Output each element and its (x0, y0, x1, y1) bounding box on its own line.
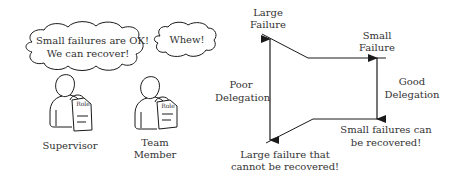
large-unrecoverable-label-line-1: Large failure that (230, 149, 340, 161)
good-delegation-label-line-1: Good (382, 76, 442, 88)
team-member-speech: Whew! (160, 34, 214, 46)
small-failure-label-line-2: Failure (350, 42, 404, 54)
supervisor-speech-line-1: Small failures are OK! (36, 35, 140, 47)
supervisor-label: Supervisor (40, 140, 100, 152)
large-failure-label-line-1: Large (244, 7, 292, 19)
large-unrecoverable-label-line-2: cannot be recovered! (230, 161, 340, 173)
delegation-diagram: Small failures are OK! We can recover! W… (0, 0, 449, 179)
small-recoverable-label-line-1: Small failures can (336, 124, 436, 136)
good-delegation-label-line-2: Delegation (382, 89, 442, 101)
supervisor-speech-line-2: We can recover! (36, 48, 140, 60)
poor-delegation-label-line-2: Delegation (215, 92, 267, 104)
large-failure-label-line-2: Failure (244, 19, 292, 31)
team-member-label-line-2: Member (125, 149, 185, 161)
team-member-label-line-1: Team (125, 137, 185, 149)
supervisor-role-tag-label: Role (74, 100, 92, 108)
poor-delegation-label-line-1: Poor (215, 79, 267, 91)
small-failure-label-line-1: Small (350, 30, 404, 42)
team-member-role-tag-label: Role (159, 102, 177, 110)
small-recoverable-label-line-2: be recovered! (336, 137, 436, 149)
